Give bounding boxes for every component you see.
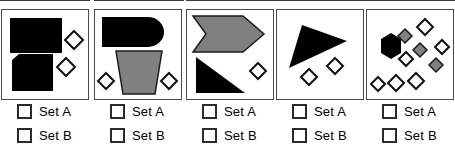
answer-row-set-b[interactable]: Set B [292,128,347,143]
previous-panel-stub [366,0,455,1]
shape-white-diamond [408,73,424,89]
answer-row-set-a[interactable]: Set A [17,104,71,119]
answers-panel-3: Set A Set B [186,101,274,152]
answers-panel-5: Set A Set B [366,101,454,152]
answer-row-set-a[interactable]: Set A [382,104,436,119]
answer-row-set-a[interactable]: Set A [110,104,164,119]
shape-white-diamond [371,77,385,91]
shape-gray-chevron [193,16,264,52]
shape-black-right-triangle [196,57,245,93]
panel-2-canvas [96,11,180,98]
answer-row-set-b[interactable]: Set B [202,128,257,143]
checkbox-p5-set-a[interactable] [382,104,397,119]
checkbox-p1-set-b[interactable] [17,128,32,143]
panel-2[interactable] [94,9,182,100]
answer-row: Set A Set B Set A Set B Set A [0,101,455,152]
checkbox-p2-set-a[interactable] [110,104,125,119]
previous-row-crop [0,0,455,8]
answers-panel-1: Set A Set B [1,101,89,152]
shape-white-diamond [301,69,317,85]
label-p3-set-a: Set A [224,104,256,119]
shape-gray-diamond [413,43,427,57]
label-p3-set-b: Set B [224,128,257,143]
shape-gray-diamond [429,58,443,72]
panel-3[interactable] [186,9,274,100]
shape-white-diamond [57,58,75,76]
previous-panel-stub [186,0,276,1]
panel-4[interactable] [276,9,364,100]
set-classification-task: Set A Set B Set A Set B Set A [0,0,455,152]
previous-panel-stub [276,0,366,1]
label-p4-set-b: Set B [314,128,347,143]
panel-3-canvas [188,11,272,98]
answer-row-set-b[interactable]: Set B [382,128,437,143]
shape-white-diamond [435,40,449,54]
checkbox-p4-set-a[interactable] [292,104,307,119]
shape-white-diamond [399,52,413,66]
label-p2-set-b: Set B [132,128,165,143]
panel-row [0,9,455,101]
shape-white-diamond [417,19,433,35]
label-p4-set-a: Set A [314,104,346,119]
label-p1-set-a: Set A [39,104,71,119]
shape-black-bullet [102,17,164,47]
checkbox-p4-set-b[interactable] [292,128,307,143]
answer-row-set-b[interactable]: Set B [110,128,165,143]
checkbox-p2-set-b[interactable] [110,128,125,143]
label-p2-set-a: Set A [132,104,164,119]
shape-white-diamond [388,75,404,91]
panel-4-canvas [278,11,362,98]
shape-white-diamond [327,58,343,74]
checkbox-p1-set-a[interactable] [17,104,32,119]
answers-panel-4: Set A Set B [276,101,364,152]
panel-1-canvas [3,11,87,98]
answer-row-set-a[interactable]: Set A [292,104,346,119]
shape-white-diamond [65,31,83,49]
panel-5[interactable] [366,9,454,100]
shape-white-diamond [98,73,114,89]
checkbox-p5-set-b[interactable] [382,128,397,143]
label-p1-set-b: Set B [39,128,72,143]
checkbox-p3-set-b[interactable] [202,128,217,143]
shape-gray-trapezoid [116,51,162,94]
label-p5-set-b: Set B [404,128,437,143]
shape-white-diamond [250,63,266,79]
previous-panel-stub [94,0,184,1]
checkbox-p3-set-a[interactable] [202,104,217,119]
answers-panel-2: Set A Set B [94,101,182,152]
shape-black-pentagon [12,54,53,91]
panel-5-canvas [368,11,452,98]
answer-row-set-a[interactable]: Set A [202,104,256,119]
label-p5-set-a: Set A [404,104,436,119]
shape-black-rectangle [10,18,62,53]
panel-1[interactable] [1,9,89,100]
shape-white-diamond [161,73,177,89]
answer-row-set-b[interactable]: Set B [17,128,72,143]
previous-panel-stub [0,0,90,1]
